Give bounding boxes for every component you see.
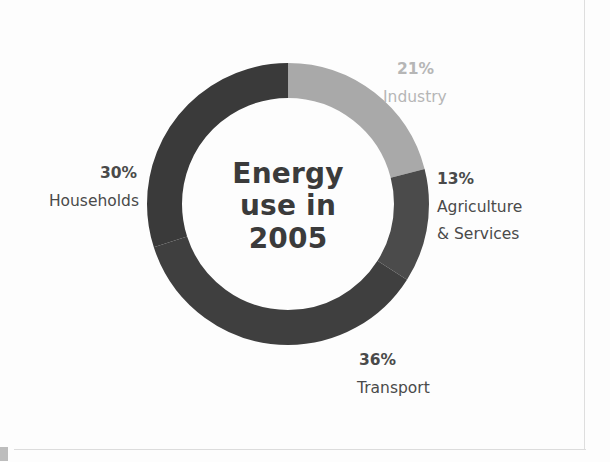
- chart-center-title: Energy use in 2005: [187, 158, 389, 255]
- callout-industry-label: Industry: [383, 84, 447, 112]
- page-edge-right: [584, 0, 585, 450]
- donut-chart: Energy use in 2005 21% Industry 13% Agri…: [0, 0, 610, 440]
- callout-agriculture-label-line-1: Agriculture: [437, 194, 522, 222]
- page-corner-mark: [0, 447, 8, 461]
- callout-transport: 36% Transport: [357, 347, 430, 402]
- callout-transport-percent: 36%: [357, 347, 430, 375]
- callout-industry: 21% Industry: [383, 56, 447, 111]
- callout-agriculture-percent: 13%: [437, 166, 522, 194]
- page-edge-bottom: [14, 449, 586, 450]
- center-title-line-3: 2005: [187, 223, 389, 255]
- callout-industry-percent: 21%: [383, 56, 447, 84]
- page-canvas: Energy use in 2005 21% Industry 13% Agri…: [0, 0, 610, 462]
- callout-transport-label: Transport: [357, 375, 430, 403]
- callout-agriculture-label-line-2: & Services: [437, 221, 522, 249]
- center-title-line-2: use in: [187, 190, 389, 222]
- callout-agriculture: 13% Agriculture & Services: [437, 166, 522, 249]
- callout-households-label: Households: [49, 188, 139, 216]
- callout-households-percent: 30%: [49, 160, 139, 188]
- center-title-line-1: Energy: [187, 158, 389, 190]
- callout-households: 30% Households: [49, 160, 139, 215]
